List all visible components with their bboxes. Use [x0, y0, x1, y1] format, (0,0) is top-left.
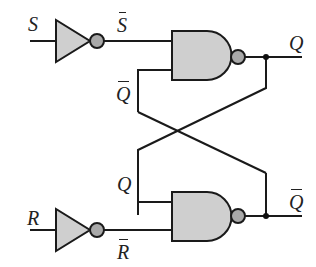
circuit-svg: [0, 0, 316, 267]
label-q-feedback: Q: [117, 174, 131, 194]
label-q-bar-feedback-text: Q: [116, 84, 130, 104]
q-junction-dot: [263, 54, 269, 60]
label-r-text: R: [27, 207, 39, 229]
q-feedback-wire-b: [138, 150, 172, 202]
label-q-bar-feedback: Q: [116, 84, 130, 104]
q-bar-feedback-wire-top: [138, 70, 172, 112]
label-q-bar-output: Q: [289, 192, 303, 212]
label-q-output: Q: [289, 33, 303, 53]
label-s-bar: S: [117, 15, 127, 35]
label-q-feedback-text: Q: [117, 173, 131, 195]
q-bar-junction-dot: [263, 213, 269, 219]
nand-gate-bottom-icon: [172, 192, 232, 241]
label-r-bar: R: [117, 242, 129, 262]
label-q-output-text: Q: [289, 32, 303, 54]
inverter-s-icon: [56, 20, 90, 62]
label-s-bar-text: S: [117, 15, 127, 35]
sr-latch-diagram: S S Q Q Q R R Q: [0, 0, 316, 267]
q-bar-feedback-diagonal: [138, 112, 266, 173]
inverter-r-bubble: [90, 223, 104, 237]
nand-bottom-bubble: [231, 209, 245, 223]
nand-top-bubble: [231, 50, 245, 64]
label-r: R: [27, 208, 39, 228]
label-r-bar-text: R: [117, 242, 129, 262]
label-s-text: S: [28, 13, 38, 35]
label-s: S: [28, 14, 38, 34]
label-q-bar-output-text: Q: [289, 192, 303, 212]
nand-gate-top-icon: [172, 31, 231, 80]
inverter-r-icon: [56, 209, 90, 251]
inverter-s-bubble: [90, 34, 104, 48]
